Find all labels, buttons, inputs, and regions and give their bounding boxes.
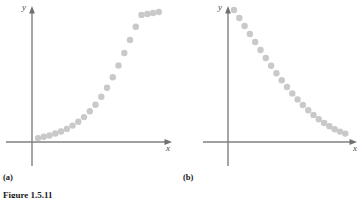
x-axis-label-a: x (166, 144, 170, 153)
x-axis-label-b: x (353, 144, 357, 153)
panel-caption-b: (b) (183, 173, 193, 182)
y-axis-arrowhead-a (29, 6, 35, 14)
chart-panel-b: y x (b) (179, 0, 357, 198)
figure-caption: Figure 1.5.11 (3, 191, 53, 198)
scatter-plot-a (0, 0, 178, 170)
y-axis-label-b: y (218, 3, 222, 12)
figure-container: y x (a) (0, 0, 357, 198)
panel-caption-a: (a) (3, 173, 13, 182)
y-axis-label-a: y (22, 3, 26, 12)
y-axis-arrowhead-b (225, 6, 231, 14)
scatter-plot-b (179, 0, 357, 170)
chart-panel-a: y x (a) (0, 0, 178, 198)
data-points-b (231, 7, 349, 137)
data-points-a (35, 9, 162, 142)
